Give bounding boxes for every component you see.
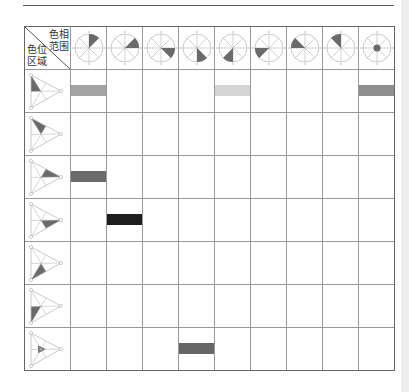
label-line: 区域	[27, 56, 47, 68]
hue-se-s-wheel-icon	[179, 27, 215, 70]
hue-region-matrix: 色相 范围 色位 区域	[24, 26, 395, 371]
region-left-upper-triangle-icon	[25, 70, 71, 113]
hue-n-ne-wheel-icon	[71, 27, 107, 70]
hue-nw-n-wheel-icon	[323, 27, 359, 70]
hue-region-bar	[107, 214, 142, 225]
page-edge-band	[401, 0, 409, 392]
grid-hline	[25, 327, 394, 328]
hue-region-bar	[179, 343, 214, 354]
label-line: 范围	[49, 41, 69, 53]
top-rule	[23, 5, 394, 6]
hue-region-bar	[359, 85, 394, 96]
region-bottom-left-triangle-icon	[25, 242, 71, 285]
hue-region-bar	[71, 85, 106, 96]
hue-sw-w-wheel-icon	[251, 27, 287, 70]
header-region-label: 色位 区域	[27, 44, 47, 68]
label-line: 色位	[27, 44, 47, 56]
grid-hline	[25, 155, 394, 156]
region-bottom-right-triangle-icon	[25, 199, 71, 242]
region-center-triangle-icon	[25, 328, 71, 371]
grid-hline	[25, 112, 394, 113]
header-hue-range-label: 色相 范围	[49, 29, 69, 53]
hue-w-nw-wheel-icon	[287, 27, 323, 70]
hue-region-bar	[215, 85, 250, 96]
region-left-lower-triangle-icon	[25, 285, 71, 328]
region-top-left-triangle-icon	[25, 113, 71, 156]
region-top-right-triangle-icon	[25, 156, 71, 199]
hue-ne-e-wheel-icon	[107, 27, 143, 70]
grid-hline	[25, 198, 394, 199]
hue-region-bar	[71, 171, 106, 182]
hue-s-sw-wheel-icon	[215, 27, 251, 70]
hue-e-se-wheel-icon	[143, 27, 179, 70]
label-line: 色相	[49, 29, 69, 41]
grid-hline	[25, 241, 394, 242]
grid-hline	[25, 284, 394, 285]
hue-center-wheel-icon	[359, 27, 395, 70]
